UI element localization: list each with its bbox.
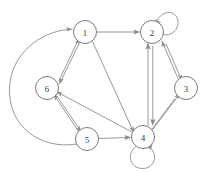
node-1-label: 1: [83, 28, 88, 38]
node-2-label: 2: [150, 28, 155, 38]
edge-1-to-6: [59, 37, 80, 85]
node-5-label: 5: [85, 135, 90, 145]
node-3[interactable]: 3: [175, 77, 198, 100]
node-6[interactable]: 6: [36, 77, 59, 100]
node-5[interactable]: 5: [76, 128, 99, 151]
node-2[interactable]: 2: [141, 21, 164, 44]
edge-6-to-5: [53, 94, 81, 132]
edge-1-to-4: [93, 42, 135, 134]
node-layer: 1 2 3 4 5 6: [36, 21, 198, 151]
node-3-label: 3: [184, 84, 189, 94]
edge-2-to-4: [145, 42, 155, 126]
edge-1-to-2: [97, 29, 141, 34]
node-1[interactable]: 1: [74, 21, 97, 44]
edge-2-to-3: [162, 40, 183, 81]
node-4[interactable]: 4: [132, 126, 155, 149]
edge-5-to-4: [99, 135, 132, 140]
directed-graph-diagram: 1 2 3 4 5 6: [0, 0, 210, 172]
node-6-label: 6: [45, 84, 50, 94]
node-4-label: 4: [141, 133, 146, 143]
